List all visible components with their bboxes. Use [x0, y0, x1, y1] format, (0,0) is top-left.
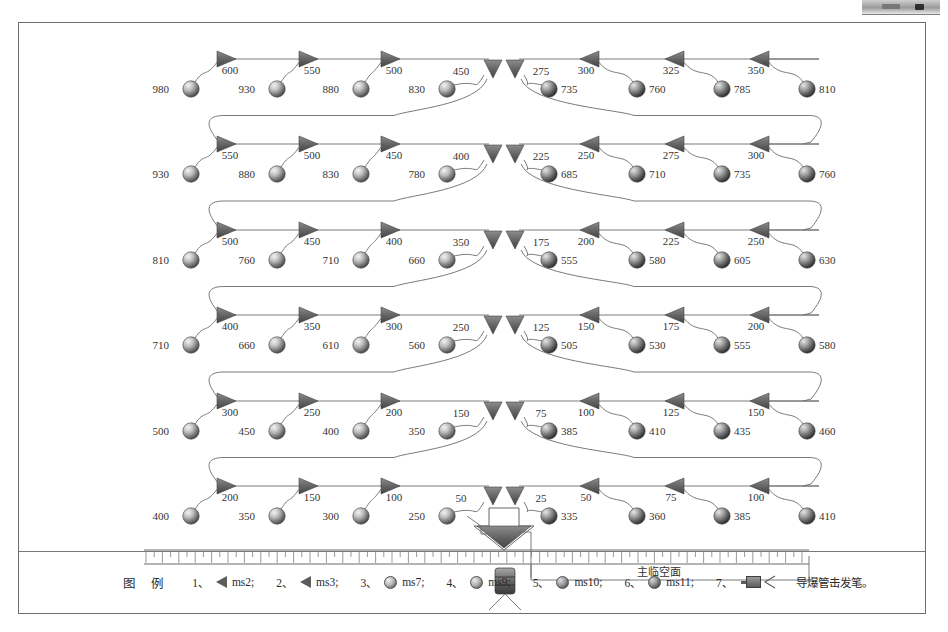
borehole-detonator[interactable]: [183, 423, 199, 439]
main-initiation-triangle[interactable]: [477, 526, 531, 548]
borehole-detonator[interactable]: [799, 81, 815, 97]
borehole-detonator[interactable]: [799, 166, 815, 182]
borehole-detonator[interactable]: [714, 337, 730, 353]
borehole-detonator[interactable]: [183, 337, 199, 353]
borehole-detonator[interactable]: [799, 508, 815, 524]
borehole-detonator[interactable]: [183, 166, 199, 182]
borehole-detonator[interactable]: [353, 252, 369, 268]
surface-delay-label: 300: [578, 64, 595, 76]
hole-delay-label: 400: [153, 510, 170, 522]
borehole-detonator[interactable]: [629, 423, 645, 439]
borehole-detonator[interactable]: [183, 508, 199, 524]
center-surface-delay-triangle-left[interactable]: [484, 316, 502, 334]
legend-item-4-label: ms9;: [488, 576, 510, 588]
surface-delay-label: 225: [663, 235, 680, 247]
center-surface-delay-triangle-right[interactable]: [506, 231, 524, 249]
borehole-detonator[interactable]: [541, 81, 557, 97]
borehole-detonator[interactable]: [541, 166, 557, 182]
legend-bar: 图 例 1、 ms2; 2、 ms3; 3、 ms7; 4、: [19, 551, 925, 613]
borehole-detonator[interactable]: [269, 81, 285, 97]
borehole-detonator[interactable]: [439, 423, 455, 439]
borehole-detonator[interactable]: [353, 166, 369, 182]
hole-delay-label: 605: [734, 254, 751, 266]
downline: [598, 488, 633, 509]
borehole-detonator[interactable]: [629, 252, 645, 268]
center-surface-delay-triangle-left[interactable]: [484, 231, 502, 249]
surface-delay-label: 300: [386, 320, 403, 332]
hole-delay-label: 350: [409, 425, 426, 437]
borehole-detonator[interactable]: [353, 337, 369, 353]
hole-delay-label: 300: [323, 510, 340, 522]
borehole-detonator[interactable]: [353, 81, 369, 97]
downline: [768, 146, 803, 167]
hole-delay-label: 505: [561, 339, 578, 351]
borehole-detonator[interactable]: [439, 81, 455, 97]
surface-delay-label: 450: [304, 235, 321, 247]
borehole-detonator[interactable]: [439, 252, 455, 268]
downline: [598, 317, 633, 338]
downline: [683, 403, 718, 424]
surface-delay-label: 400: [222, 320, 239, 332]
borehole-detonator[interactable]: [541, 337, 557, 353]
hole-delay-label: 780: [409, 168, 426, 180]
borehole-detonator[interactable]: [799, 337, 815, 353]
hole-delay-label: 450: [239, 425, 256, 437]
borehole-detonator[interactable]: [714, 423, 730, 439]
borehole-detonator[interactable]: [714, 508, 730, 524]
borehole-detonator[interactable]: [269, 252, 285, 268]
borehole-detonator[interactable]: [629, 337, 645, 353]
chrome-dot-shape: [915, 4, 924, 10]
hole-delay-label: 580: [819, 339, 836, 351]
surface-delay-label: 75: [536, 407, 548, 419]
center-surface-delay-triangle-right[interactable]: [506, 487, 524, 505]
borehole-detonator[interactable]: [541, 423, 557, 439]
center-surface-delay-triangle-right[interactable]: [506, 145, 524, 163]
center-surface-delay-triangle-right[interactable]: [506, 60, 524, 78]
borehole-detonator[interactable]: [269, 508, 285, 524]
borehole-detonator[interactable]: [629, 508, 645, 524]
borehole-detonator[interactable]: [439, 508, 455, 524]
borehole-detonator[interactable]: [714, 166, 730, 182]
borehole-detonator[interactable]: [183, 252, 199, 268]
center-surface-delay-triangle-left[interactable]: [484, 60, 502, 78]
network-row: 4003503002501251501752007106606105605055…: [153, 307, 837, 401]
center-surface-delay-triangle-left[interactable]: [484, 402, 502, 420]
surface-delay-label: 400: [386, 235, 403, 247]
downline: [768, 488, 803, 509]
network-row: 5505004504002252502753009308808307806857…: [153, 136, 837, 230]
borehole-detonator[interactable]: [439, 337, 455, 353]
borehole-detonator[interactable]: [269, 166, 285, 182]
borehole-detonator[interactable]: [353, 508, 369, 524]
hole-delay-label: 555: [734, 339, 751, 351]
borehole-detonator[interactable]: [714, 81, 730, 97]
center-surface-delay-triangle-left[interactable]: [484, 487, 502, 505]
surface-delay-label: 350: [748, 64, 765, 76]
surface-delay-label: 100: [578, 406, 595, 418]
screenshot-root: 6005505004502753003253509809308808307357…: [0, 0, 948, 632]
borehole-detonator[interactable]: [541, 508, 557, 524]
borehole-detonator[interactable]: [629, 81, 645, 97]
borehole-detonator[interactable]: [439, 166, 455, 182]
legend-item-6-label: ms11;: [666, 576, 694, 588]
hole-delay-label: 735: [561, 83, 578, 95]
borehole-detonator[interactable]: [799, 252, 815, 268]
borehole-detonator[interactable]: [541, 252, 557, 268]
surface-delay-label: 400: [453, 150, 470, 162]
downline: [195, 403, 218, 424]
center-surface-delay-triangle-left[interactable]: [484, 145, 502, 163]
borehole-detonator[interactable]: [353, 423, 369, 439]
hole-delay-label: 710: [153, 339, 170, 351]
borehole-detonator[interactable]: [269, 423, 285, 439]
borehole-detonator[interactable]: [799, 423, 815, 439]
center-surface-delay-triangle-right[interactable]: [506, 316, 524, 334]
borehole-detonator[interactable]: [269, 337, 285, 353]
legend-item-7: 7、 导爆管击发笔。: [716, 574, 873, 590]
legend-row: 图 例 1、 ms2; 2、 ms3; 3、 ms7; 4、: [19, 570, 925, 594]
legend-item-7-label: 导爆管击发笔。: [796, 574, 873, 590]
borehole-detonator[interactable]: [629, 166, 645, 182]
center-surface-delay-triangle-right[interactable]: [506, 402, 524, 420]
borehole-detonator[interactable]: [183, 81, 199, 97]
borehole-detonator[interactable]: [714, 252, 730, 268]
blast-network-svg: 6005505004502753003253509809308808307357…: [19, 23, 927, 615]
hole-delay-label: 760: [649, 83, 666, 95]
